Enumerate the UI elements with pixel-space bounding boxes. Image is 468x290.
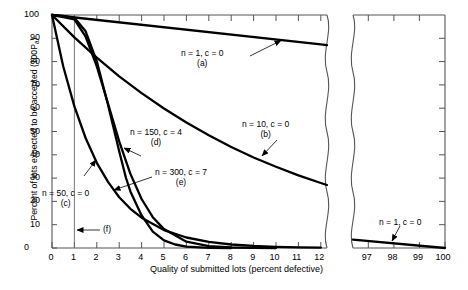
y-axis-title: Percent of lots expected to be accepted … — [29, 19, 39, 239]
leader-line-b — [262, 140, 277, 156]
y-tick-label-0: 0 — [24, 242, 29, 252]
annotation-c: n = 50, c = 0 (c) — [42, 189, 89, 209]
annotation-c-key: (c) — [42, 199, 89, 209]
oc-curve-figure: 0 10 20 30 40 50 60 70 80 90 100 0 1 2 3… — [0, 0, 468, 290]
chart-canvas — [0, 0, 468, 290]
x-tick-label-7: 7 — [205, 252, 210, 262]
annotation-b: n = 10, c = 0 (b) — [242, 120, 289, 140]
x-tick-label-11: 11 — [292, 252, 301, 262]
x-tick-label-97: 97 — [362, 252, 372, 262]
annotation-f-text: (f) — [103, 225, 111, 235]
annotation-b-key: (b) — [242, 130, 289, 140]
axis-break-wave-right — [351, 15, 354, 248]
leader-line-a-right — [392, 226, 400, 241]
y-axis-title-main: Percent of lots expected to be accepted … — [29, 44, 39, 220]
annotation-a-right: n = 1, c = 0 — [379, 218, 422, 228]
annotation-e: n = 300, c = 7 (e) — [155, 168, 207, 188]
y-axis-title-subscript: a — [33, 40, 40, 44]
x-tick-label-5: 5 — [161, 252, 166, 262]
x-tick-label-98: 98 — [387, 252, 397, 262]
x-tick-label-0: 0 — [49, 252, 54, 262]
x-tick-label-100: 100 — [436, 252, 451, 262]
x-tick-label-2: 2 — [93, 252, 98, 262]
leader-line-a — [250, 41, 281, 57]
annotation-d: n = 150, c = 4 (d) — [130, 128, 182, 148]
x-tick-label-12: 12 — [314, 252, 324, 262]
leader-line-c — [84, 160, 96, 176]
left-top-axis-ticks — [74, 15, 320, 21]
x-tick-label-8: 8 — [228, 252, 233, 262]
y-tick-label-100: 100 — [24, 9, 39, 19]
right-y-axis-ticks — [439, 38, 445, 224]
x-tick-label-10: 10 — [270, 252, 280, 262]
x-axis-title: Quality of submitted lots (percent defec… — [150, 264, 323, 274]
axis-break — [325, 15, 354, 248]
x-tick-label-9: 9 — [250, 252, 255, 262]
annotation-a: n = 1, c = 0 (a) — [181, 49, 224, 69]
right-panel-axes — [353, 15, 445, 248]
right-x-axis-ticks — [368, 15, 445, 248]
x-tick-label-99: 99 — [413, 252, 423, 262]
annotation-a-key: (a) — [181, 59, 224, 69]
annotation-a-right-text: n = 1, c = 0 — [379, 218, 422, 228]
annotation-d-key: (d) — [130, 138, 182, 148]
curve-a-right-n1-c0 — [353, 240, 445, 248]
x-tick-label-3: 3 — [116, 252, 121, 262]
leader-line-d — [124, 148, 141, 156]
annotation-e-key: (e) — [155, 178, 207, 188]
axis-break-wave-left — [325, 15, 328, 248]
x-tick-label-6: 6 — [183, 252, 188, 262]
y-axis-ticks — [52, 15, 57, 248]
x-tick-label-1: 1 — [71, 252, 76, 262]
annotation-f: (f) — [103, 225, 111, 235]
curve-a-n1-c0 — [52, 15, 327, 45]
x-tick-label-4: 4 — [138, 252, 143, 262]
